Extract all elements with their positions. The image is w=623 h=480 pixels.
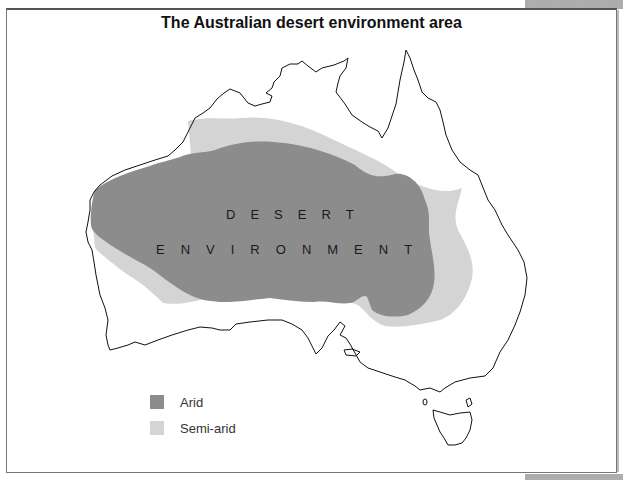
king-island [423,399,427,405]
label-letter: T [404,242,412,257]
legend-label: Semi-arid [180,421,236,436]
label-letter: T [346,207,354,222]
label-letter: O [276,242,286,257]
australia-map [0,0,623,480]
label-letter: R [321,207,330,222]
label-letter: N [379,242,388,257]
label-letter: E [250,207,259,222]
label-letter: D [226,207,235,222]
label-letter: E [354,242,363,257]
legend-label: Arid [180,395,203,410]
legend-item-arid: Arid [150,393,236,411]
desert-label: DESERT [226,207,354,222]
semi-arid-swatch [150,421,164,435]
label-letter: V [206,242,215,257]
label-letter: R [250,242,259,257]
label-letter: E [298,207,307,222]
label-letter: N [181,242,190,257]
map-legend: Arid Semi-arid [150,393,236,445]
legend-item-semi-arid: Semi-arid [150,419,236,437]
coastline-kangaroo-island [344,349,360,356]
label-letter: N [302,242,311,257]
flinders-island [466,398,472,407]
label-letter: M [327,242,338,257]
label-letter: I [231,242,235,257]
coastline-tasmania [433,410,472,445]
arid-swatch [150,395,164,409]
label-letter: E [156,242,165,257]
environment-label: ENVIRONMENT [156,242,412,257]
label-letter: S [274,207,283,222]
